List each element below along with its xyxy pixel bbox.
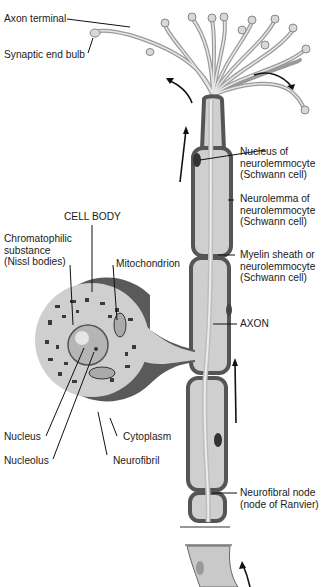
label-neurolemma: Neurolemma of neurolemmocyte (Schwann ce… [240, 193, 315, 228]
label-cytoplasm: Cytoplasm [123, 431, 171, 443]
label-nucleus: Nucleus [4, 431, 41, 443]
label-nucleolus: Nucleolus [4, 455, 49, 467]
label-neurofibril: Neurofibril [113, 455, 159, 467]
label-axon-terminal: Axon terminal [4, 13, 66, 25]
schwann-nucleus [193, 153, 201, 167]
label-chromatophilic-substance: Chromatophilic substance (Nissl bodies) [4, 233, 72, 268]
label-myelin-sheath: Myelin sheath or neurolemmocyte (Schwann… [240, 249, 315, 284]
label-mitochondrion: Mitochondrion [116, 258, 180, 270]
label-cell-body: CELL BODY [64, 211, 121, 223]
label-synaptic-end-bulb: Synaptic end bulb [4, 49, 85, 61]
axon-terminal-inner [95, 18, 305, 111]
label-axon: AXON [240, 318, 269, 330]
label-neurofibral-node: Neurofibral node (node of Ranvier) [240, 487, 319, 510]
label-nucleus-of-neurolemmocyte: Nucleus of neurolemmocyte (Schwann cell) [240, 146, 315, 181]
